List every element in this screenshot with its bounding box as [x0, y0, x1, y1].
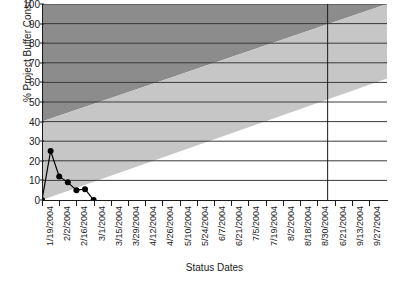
x-axis-tick-label: 9/13/2004 [356, 206, 365, 246]
y-axis-tick [40, 180, 44, 181]
x-axis-tick-label: 6/21/2004 [235, 206, 244, 246]
y-axis-tick [40, 121, 44, 122]
data-point [48, 148, 54, 154]
y-axis-tick-label: 80 [29, 38, 40, 49]
x-axis-tick-label: 8/2/2004 [287, 206, 296, 241]
y-axis-tick-label: 60 [29, 77, 40, 88]
x-axis-tick-label: 1/19/2004 [46, 206, 55, 246]
x-axis-tick-label: 2/16/2004 [80, 206, 89, 246]
y-axis-tick [40, 62, 44, 63]
x-axis-title: Status Dates [42, 262, 387, 273]
y-axis-tick-labels: 0102030405060708090100 [14, 0, 40, 200]
y-axis-tick-label: 20 [29, 155, 40, 166]
y-axis-tick [40, 102, 44, 103]
y-axis-tick [40, 23, 44, 24]
y-axis-tick [40, 160, 44, 161]
x-axis-tick-label: 2/2/2004 [63, 206, 72, 241]
x-axis-tick-label: 3/29/2004 [132, 206, 141, 246]
y-axis-tick [40, 200, 44, 201]
data-point [56, 173, 62, 179]
y-axis-tick-label: 70 [29, 57, 40, 68]
y-axis-tick-label: 50 [29, 97, 40, 108]
x-axis-tick-label: 5/24/2004 [201, 206, 210, 246]
y-axis-tick-label: 40 [29, 116, 40, 127]
x-axis-tick-label: 4/26/2004 [166, 206, 175, 246]
x-axis-tick-label: 8/18/2004 [304, 206, 313, 246]
y-axis-tick-label: 30 [29, 136, 40, 147]
y-axis-tick [40, 4, 44, 5]
x-axis-tick-label: 7/19/2004 [270, 206, 279, 246]
data-point [82, 186, 88, 192]
y-axis-tick [40, 82, 44, 83]
data-point [73, 187, 79, 193]
x-axis-tick-label: 6/21/2004 [339, 206, 348, 246]
x-axis-tick-label: 8/30/2004 [321, 206, 330, 246]
plot-area [42, 4, 387, 200]
fever-chart: % Project Buffer Consumed 01020304050607… [0, 0, 420, 281]
y-axis-tick [40, 43, 44, 44]
x-axis-tick-label: 5/10/2004 [184, 206, 193, 246]
x-axis-tick-label: 6/7/2004 [218, 206, 227, 241]
y-axis-tick-label: 10 [29, 175, 40, 186]
y-axis-line [42, 4, 43, 201]
x-axis-tick-label: 4/12/2004 [149, 206, 158, 246]
data-point [65, 179, 71, 185]
x-axis-tick-labels: 1/19/20042/2/20042/16/20043/1/20043/15/2… [42, 206, 387, 254]
y-axis-tick [40, 141, 44, 142]
x-axis-tick-label: 7/5/2004 [252, 206, 261, 241]
x-axis-tick-label: 3/15/2004 [115, 206, 124, 246]
y-axis-tick-label: 100 [23, 0, 40, 10]
plot-svg [42, 4, 387, 200]
x-axis-tick-label: 9/27/2004 [373, 206, 382, 246]
x-axis-tick-label: 3/1/2004 [98, 206, 107, 241]
y-axis-tick-label: 90 [29, 18, 40, 29]
